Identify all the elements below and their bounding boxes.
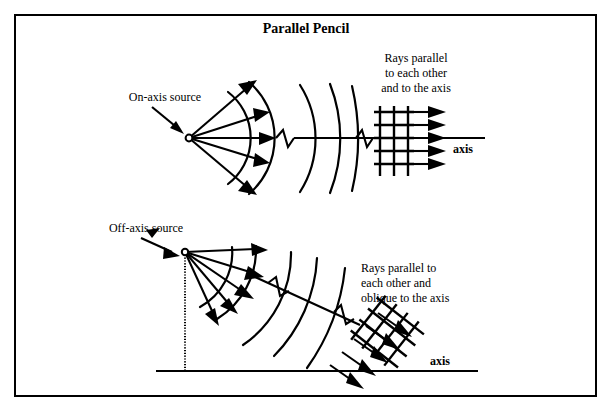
top-rays-note-line3: and to the axis	[381, 81, 451, 95]
parallel-pencil-figure: Parallel Pencil On-axis source	[0, 0, 613, 412]
bottom-panel: Off-axis source	[109, 221, 478, 389]
output-arrowhead	[428, 158, 446, 170]
ray-arrowhead	[253, 153, 270, 167]
top-panel: On-axis source	[129, 51, 485, 195]
on-axis-source-point	[186, 135, 193, 142]
bottom-rays-note: Rays parallel to each other and oblique …	[361, 261, 450, 305]
output-arrowhead	[358, 359, 376, 376]
figure-border	[15, 15, 596, 396]
ray-arrowhead	[253, 108, 270, 122]
output-arrowhead	[428, 132, 446, 144]
top-rays-note-line2: to each other	[385, 66, 447, 80]
output-arrowhead	[428, 106, 446, 118]
off-axis-source-point	[182, 249, 188, 255]
axis-break-symbol-top	[276, 130, 294, 147]
ray-arrowhead	[251, 243, 268, 256]
figure-title: Parallel Pencil	[263, 21, 350, 36]
top-grid	[374, 106, 414, 176]
bottom-rays-note-line1: Rays parallel to	[361, 261, 436, 275]
output-arrowhead	[428, 145, 446, 157]
off-axis-source-label: Off-axis source	[109, 221, 183, 235]
bottom-rays-note-line3: oblique to the axis	[361, 291, 450, 305]
output-arrowhead	[428, 119, 446, 131]
output-arrowhead	[346, 372, 364, 389]
ray-arrowhead	[205, 308, 219, 326]
top-rays-note-line1: Rays parallel	[385, 51, 449, 65]
on-axis-source-label: On-axis source	[129, 90, 201, 104]
ray-arrowhead	[220, 298, 238, 314]
pointer-arrowhead	[163, 247, 180, 259]
bottom-axis-label: axis	[430, 354, 450, 368]
bottom-rays-note-line2: each other and	[361, 276, 431, 290]
top-rays-note: Rays parallel to each other and to the a…	[381, 51, 451, 95]
on-axis-source-pointer	[152, 107, 184, 134]
top-axis-label: axis	[453, 142, 473, 156]
